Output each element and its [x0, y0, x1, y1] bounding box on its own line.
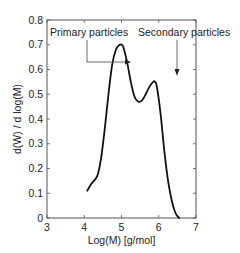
- annotation-secondary-label: Secondary particles: [138, 26, 230, 38]
- y-tick-label: 0.4: [28, 113, 43, 125]
- plot-area: [47, 20, 196, 218]
- annotation-primary-leader: [87, 40, 126, 62]
- y-tick-label: 0.7: [28, 38, 43, 50]
- y-axis-label: d(W) / d log(M): [11, 84, 23, 154]
- x-axis-label: Log(M) [g/mol]: [88, 234, 156, 246]
- axes-frame: [47, 20, 196, 218]
- chart: 00.10.20.30.40.50.60.70.8 34567 Primary …: [0, 0, 240, 253]
- y-tick-label: 0: [37, 212, 43, 224]
- x-axis: 34567: [44, 20, 199, 233]
- x-tick-label: 7: [193, 221, 199, 233]
- y-tick-label: 0.5: [28, 88, 43, 100]
- y-tick-label: 0.8: [28, 14, 43, 26]
- y-tick-label: 0.3: [28, 137, 43, 149]
- y-tick-label: 0.2: [28, 162, 43, 174]
- x-tick-label: 4: [81, 221, 87, 233]
- annotation-primary-label: Primary particles: [50, 26, 128, 38]
- arrow-head-icon: [175, 69, 180, 76]
- x-tick-label: 6: [156, 221, 162, 233]
- data-series-line: [87, 44, 179, 218]
- y-tick-label: 0.1: [28, 187, 43, 199]
- x-tick-label: 3: [44, 221, 50, 233]
- annotation-secondary: Secondary particles: [138, 26, 230, 76]
- y-tick-label: 0.6: [28, 63, 43, 75]
- x-tick-label: 5: [119, 221, 125, 233]
